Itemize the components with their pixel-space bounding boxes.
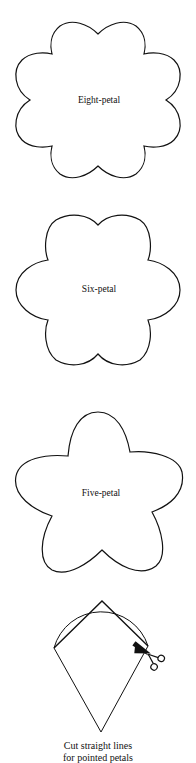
instruction-line-1: Cut straight lines: [0, 740, 196, 752]
kite-sides: [54, 646, 148, 732]
six-petal-label: Six-petal: [82, 284, 116, 294]
instruction-caption: Cut straight lines for pointed petals: [0, 740, 196, 763]
pointed-petal-diagram: [54, 601, 148, 732]
five-petal-label: Five-petal: [82, 488, 121, 498]
petal-arc: [54, 612, 148, 648]
eight-petal-label: Eight-petal: [78, 95, 120, 105]
scissors-icon: [128, 636, 167, 672]
instruction-line-2: for pointed petals: [0, 752, 196, 763]
petal-templates-canvas: [0, 0, 196, 763]
